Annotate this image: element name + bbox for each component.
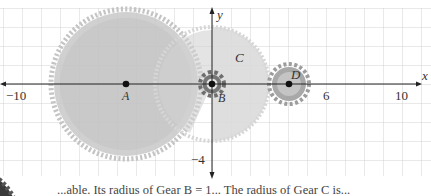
x-tick-10: 10 <box>395 88 408 103</box>
x-tick-6: 6 <box>323 88 330 103</box>
gear-b-center <box>209 81 216 88</box>
caption-text: ...able. Its radius of Gear B = 1... The… <box>57 182 431 196</box>
y-tick-neg4: −4 <box>191 152 205 167</box>
x-tick-neg10: −10 <box>6 88 26 103</box>
gear-d-label: D <box>290 67 301 82</box>
gear-c-label: C <box>235 50 244 65</box>
y-axis-label: y <box>215 7 223 22</box>
x-axis-label: x <box>421 68 428 83</box>
gear-a-center <box>123 81 130 88</box>
gear-diagram: x y −10 6 10 −4 A C B D <box>0 0 431 196</box>
gear-b-label: B <box>218 91 226 105</box>
gear-a-label: A <box>121 89 130 103</box>
